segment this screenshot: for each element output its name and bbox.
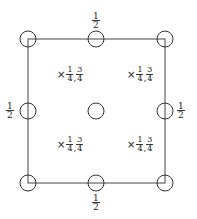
cross-icon: × (127, 69, 135, 80)
label-right-half: 1 2 (177, 102, 185, 120)
diagram-canvas (0, 0, 197, 219)
circle-center (88, 103, 104, 119)
unit-cell-square (28, 39, 165, 183)
label-left-half: 1 2 (6, 102, 14, 120)
cross-icon: × (57, 139, 65, 150)
mark-lower-right: × 14 , 34 (127, 136, 153, 153)
cross-icon: × (57, 69, 65, 80)
mark-upper-right: × 14 , 34 (127, 66, 153, 83)
mark-upper-left: × 14 , 34 (57, 66, 83, 83)
label-bottom-half: 1 2 (92, 194, 100, 212)
label-top-half: 1 2 (92, 12, 100, 30)
mark-lower-left: × 14 , 34 (57, 136, 83, 153)
cross-icon: × (127, 139, 135, 150)
